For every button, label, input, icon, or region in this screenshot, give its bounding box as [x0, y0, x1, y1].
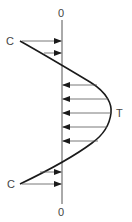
stress-curve: [20, 41, 111, 184]
compression-label-top: C: [6, 35, 14, 47]
compression-arrows-top: [22, 41, 61, 53]
bottom-axis-label: 0: [58, 206, 64, 218]
compression-label-bottom: C: [7, 178, 15, 190]
top-axis-label: 0: [58, 7, 64, 19]
stress-diagram: 0 0 C C T: [0, 0, 132, 222]
tension-label: T: [116, 107, 123, 119]
